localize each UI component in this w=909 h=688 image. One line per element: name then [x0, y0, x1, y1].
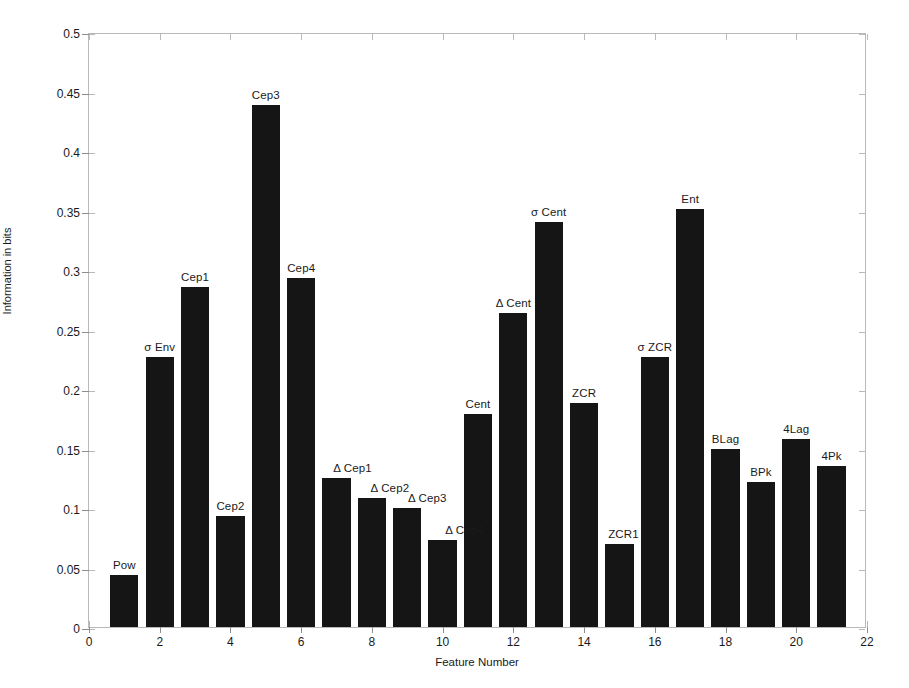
bar-chart-figure: 00.050.10.150.20.250.30.350.40.450.5 024… [0, 0, 909, 688]
bar [181, 287, 209, 627]
bar [322, 478, 350, 627]
x-tick-label: 10 [436, 635, 449, 649]
bar [252, 105, 280, 627]
x-tick-mark [230, 627, 231, 633]
y-tick-label: 0.4 [63, 146, 80, 160]
x-tick-mark [584, 627, 585, 633]
y-tick-mark [82, 34, 89, 35]
bar [817, 466, 845, 627]
bar [428, 540, 456, 627]
bar-value-label: Cep3 [252, 89, 280, 101]
bar-value-label: σ Cent [531, 206, 566, 218]
y-tick-mark [82, 332, 89, 333]
x-tick-label: 14 [577, 635, 590, 649]
x-tick-label: 8 [369, 635, 376, 649]
x-tick-mark [443, 627, 444, 633]
bar [464, 414, 492, 627]
bar [287, 278, 315, 627]
x-tick-label: 16 [648, 635, 661, 649]
x-tick-label: 18 [719, 635, 732, 649]
bar-value-label: ZCR1 [608, 528, 639, 540]
x-tick-label: 12 [507, 635, 520, 649]
x-tick-mark [160, 627, 161, 633]
bar [676, 209, 704, 627]
bar-value-label: ZCR [572, 387, 596, 399]
bar-value-label: Δ Cep4 [445, 524, 484, 536]
bar-value-label: Δ Cep3 [408, 492, 447, 504]
x-tick-label: 20 [790, 635, 803, 649]
x-axis-title: Feature Number [88, 656, 866, 668]
x-tick-inner-top [867, 34, 868, 40]
bar-value-label: 4Pk [821, 450, 841, 462]
bar [146, 357, 174, 627]
x-tick-label: 6 [298, 635, 305, 649]
bar-value-label: Pow [113, 559, 136, 571]
y-tick-mark [82, 510, 89, 511]
y-tick-label: 0.15 [57, 444, 80, 458]
y-tick-mark [82, 153, 89, 154]
y-tick-mark [82, 570, 89, 571]
x-tick-mark [513, 627, 514, 633]
y-tick-label: 0.5 [63, 27, 80, 41]
bar-value-label: Δ Cep2 [371, 482, 410, 494]
bar [605, 544, 633, 627]
y-tick-mark [82, 451, 89, 452]
x-tick-inner [867, 621, 868, 627]
y-tick-mark [82, 391, 89, 392]
x-tick-label: 22 [860, 635, 873, 649]
bar [216, 516, 244, 627]
x-tick-label: 4 [227, 635, 234, 649]
bar-value-label: σ ZCR [637, 341, 672, 353]
bar-value-label: σ Env [144, 341, 175, 353]
x-tick-mark [372, 627, 373, 633]
bar [535, 222, 563, 627]
bar [747, 482, 775, 627]
y-tick-label: 0.05 [57, 563, 80, 577]
x-tick-label: 2 [156, 635, 163, 649]
bar [711, 449, 739, 628]
x-tick-mark [89, 627, 90, 633]
y-tick-mark [82, 94, 89, 95]
y-tick-label: 0.25 [57, 325, 80, 339]
bar-value-label: Ent [681, 193, 699, 205]
plot-area: 00.050.10.150.20.250.30.350.40.450.5 024… [88, 33, 866, 628]
y-tick-label: 0.3 [63, 265, 80, 279]
bar [110, 575, 138, 627]
bar [499, 313, 527, 627]
y-tick-label: 0.1 [63, 503, 80, 517]
bar-value-label: Cep4 [287, 262, 315, 274]
x-tick-label: 0 [86, 635, 93, 649]
y-axis-title: Information in bits [1, 228, 13, 315]
x-tick-mark [726, 627, 727, 633]
y-tick-label: 0.2 [63, 384, 80, 398]
x-tick-mark [796, 627, 797, 633]
x-tick-mark [301, 627, 302, 633]
bar-value-label: BPk [750, 466, 772, 478]
bar [641, 357, 669, 627]
x-tick-mark [867, 627, 868, 633]
x-tick-mark [655, 627, 656, 633]
bars-layer [89, 34, 865, 627]
bar-value-label: Δ Cent [496, 297, 531, 309]
y-tick-mark [82, 629, 89, 630]
bar [358, 498, 386, 627]
y-tick-inner-right [859, 629, 865, 630]
bar [782, 439, 810, 627]
y-tick-label: 0.45 [57, 87, 80, 101]
y-tick-label: 0.35 [57, 206, 80, 220]
bar [393, 508, 421, 627]
bar-value-label: Δ Cep1 [333, 462, 372, 474]
bar-value-label: Cent [466, 398, 491, 410]
bar-value-label: Cep1 [181, 271, 209, 283]
bar-value-label: BLag [712, 433, 739, 445]
bar [570, 403, 598, 627]
y-tick-mark [82, 272, 89, 273]
bar-value-label: 4Lag [783, 423, 809, 435]
y-tick-mark [82, 213, 89, 214]
y-tick-label: 0 [73, 622, 80, 636]
bar-value-label: Cep2 [216, 500, 244, 512]
